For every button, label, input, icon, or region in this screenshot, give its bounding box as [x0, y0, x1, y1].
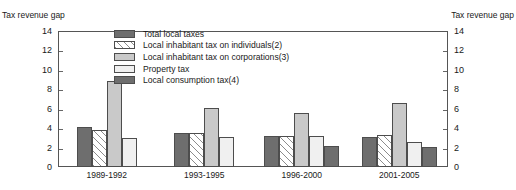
left-axis-caption: Tax revenue gap	[2, 10, 65, 20]
right-axis-caption: Tax revenue gap	[451, 10, 514, 20]
bar	[422, 147, 437, 167]
bar	[324, 146, 339, 167]
solid-light-gray-swatch	[114, 53, 135, 61]
x-axis-labels: 1989-19921993-19951996-20002001-2005	[58, 170, 448, 184]
bar	[219, 137, 234, 167]
legend-item-label: Local inhabitant tax on corporations(3)	[143, 52, 289, 62]
y-tick-label-left: 14	[30, 26, 52, 36]
bar	[279, 136, 294, 167]
solid-dark-gray-swatch	[114, 30, 135, 38]
legend-item-label: Total local taxes	[143, 29, 204, 39]
solid-very-light-gray-swatch	[114, 65, 135, 73]
x-axis-label: 1996-2000	[253, 170, 351, 184]
chart-legend: Total local taxesLocal inhabitant tax on…	[114, 28, 289, 86]
bar	[204, 108, 219, 167]
bar	[77, 127, 92, 167]
y-tick-label-right: 12	[454, 45, 476, 55]
diagonal-hatch-swatch	[114, 41, 135, 49]
legend-item: Local inhabitant tax on individuals(2)	[114, 40, 289, 52]
legend-item-label: Local inhabitant tax on individuals(2)	[143, 40, 282, 50]
y-tick-label-left: 6	[30, 104, 52, 114]
bar	[407, 142, 422, 167]
bar	[174, 133, 189, 167]
legend-item: Local consumption tax(4)	[114, 74, 289, 86]
bar	[309, 136, 324, 167]
y-tick-label-left: 12	[30, 45, 52, 55]
y-tick-label-right: 8	[454, 84, 476, 94]
bar	[377, 135, 392, 167]
legend-item-label: Property tax	[143, 64, 189, 74]
chart-title-fragment	[0, 0, 516, 3]
y-tick-label-right: 2	[454, 143, 476, 153]
bar	[392, 103, 407, 167]
x-axis-label: 1993-1995	[156, 170, 254, 184]
solid-dark-gray-swatch	[114, 76, 135, 84]
y-tick-label-left: 0	[30, 162, 52, 172]
bar	[294, 113, 309, 167]
legend-item: Property tax	[114, 63, 289, 75]
bar	[122, 138, 137, 167]
bar-group	[351, 31, 449, 167]
y-tick-label-left: 8	[30, 84, 52, 94]
y-tick-label-left: 2	[30, 143, 52, 153]
legend-item: Total local taxes	[114, 28, 289, 40]
legend-item: Local inhabitant tax on corporations(3)	[114, 51, 289, 63]
x-axis-label: 1989-1992	[58, 170, 156, 184]
y-tick-label-right: 4	[454, 123, 476, 133]
bar	[92, 130, 107, 167]
bar	[189, 133, 204, 167]
bar	[264, 136, 279, 167]
legend-item-label: Local consumption tax(4)	[143, 75, 239, 85]
y-tick-label-right: 6	[454, 104, 476, 114]
y-tick-label-right: 14	[454, 26, 476, 36]
bar	[362, 137, 377, 167]
bar	[107, 81, 122, 167]
y-tick-label-left: 10	[30, 65, 52, 75]
y-tick-label-left: 4	[30, 123, 52, 133]
y-tick-label-right: 0	[454, 162, 476, 172]
x-axis-label: 2001-2005	[351, 170, 449, 184]
y-tick-label-right: 10	[454, 65, 476, 75]
